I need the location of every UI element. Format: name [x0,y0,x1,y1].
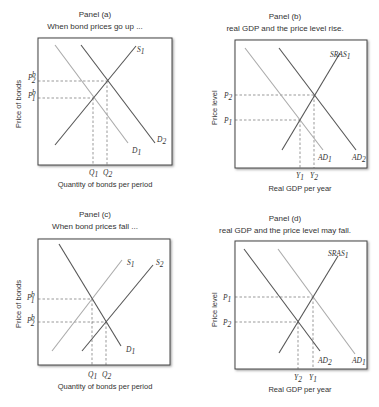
panel-b-chart: SRAS1 AD1 AD2 P2 P1 Y1 Y2 [223,40,367,182]
panel-c-frame [38,239,170,365]
tick-Q2: Q2 [103,168,112,179]
panel-a-chart: S1 D1 D2 Pb2 Pb1 Q1 Q2 [27,38,172,179]
tick-Y1: Y1 [309,373,317,384]
tick-Y2: Y2 [310,171,318,182]
tick-P2: P2 [223,91,233,102]
tick-Q1: Q1 [88,370,97,381]
tick-P1: P1 [223,116,232,127]
panel-a-frame [38,38,172,165]
tick-Pb2: Pb2 [27,70,36,85]
tick-P2: P2 [222,318,232,329]
tick-Pb2: Pb2 [26,313,35,328]
panel-d-frame [235,241,367,369]
panel-c-chart: S1 S2 D1 Pb1 Pb2 Q1 Q2 [26,239,170,381]
tick-Pb1: Pb1 [26,290,35,305]
tick-Q2: Q2 [102,370,111,381]
tick-Pb1: Pb1 [27,88,36,103]
tick-P1: P1 [222,293,231,304]
tick-Q1: Q1 [89,168,98,179]
panel-d-chart: SRAS1 AD1 AD2 P1 P2 Y2 Y1 [222,241,367,384]
charts-canvas: S1 D1 D2 Pb2 Pb1 Q1 Q2 SRAS1 AD1 AD2 P2 … [0,0,379,407]
tick-Y2: Y2 [294,373,302,384]
tick-Y1: Y1 [296,171,304,182]
